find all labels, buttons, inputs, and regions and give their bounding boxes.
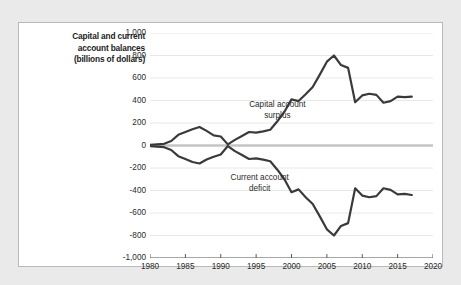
x-axis-tick-label: 2015 bbox=[389, 263, 407, 271]
x-axis-tick-label: 1990 bbox=[212, 263, 230, 271]
y-axis-tick-label: 200 bbox=[132, 119, 146, 127]
chart-title-line-2: account balances bbox=[27, 43, 145, 55]
axis-tick-marks bbox=[150, 254, 433, 258]
annotation-line-1: Capital account bbox=[249, 100, 305, 111]
y-axis-tick-label: 1,000 bbox=[126, 29, 147, 37]
annotation-line-1: Current account bbox=[231, 173, 289, 184]
x-axis-tick-label: 1995 bbox=[247, 263, 265, 271]
annotation-current-account-deficit: Current accountdeficit bbox=[231, 173, 289, 194]
annotation-capital-account-surplus: Capital accountsurplus bbox=[249, 100, 305, 121]
chart-card: Capital and current account balances (bi… bbox=[18, 22, 443, 267]
annotation-line-2: deficit bbox=[231, 184, 289, 195]
x-axis-tick-label: 2000 bbox=[282, 263, 300, 271]
x-axis-tick-label: 1980 bbox=[141, 263, 159, 271]
annotation-line-2: surplus bbox=[249, 111, 305, 122]
y-axis-tick-label: 800 bbox=[132, 51, 146, 59]
x-axis-tick-label: 2005 bbox=[318, 263, 336, 271]
y-axis-tick-label: -1,000 bbox=[123, 254, 146, 262]
y-axis-tick-label: -200 bbox=[130, 164, 146, 172]
y-axis-tick-label: 400 bbox=[132, 96, 146, 104]
y-axis-tick-label: 600 bbox=[132, 74, 146, 82]
chart-title-line-3: (billions of dollars) bbox=[27, 54, 145, 66]
x-axis-tick-label: 1985 bbox=[176, 263, 194, 271]
y-axis-tick-label: 0 bbox=[141, 141, 146, 149]
x-axis-tick-label: 2010 bbox=[353, 263, 371, 271]
y-axis-tick-label: -600 bbox=[130, 209, 146, 217]
chart-svg bbox=[150, 33, 433, 258]
page-background: Capital and current account balances (bi… bbox=[0, 0, 461, 285]
x-axis-tick-label: 2020 bbox=[424, 263, 442, 271]
plot-area: 1,0008006004002000-200-400-600-800-1,000… bbox=[150, 33, 433, 258]
y-axis-tick-label: -400 bbox=[130, 186, 146, 194]
y-axis-tick-label: -800 bbox=[130, 231, 146, 239]
